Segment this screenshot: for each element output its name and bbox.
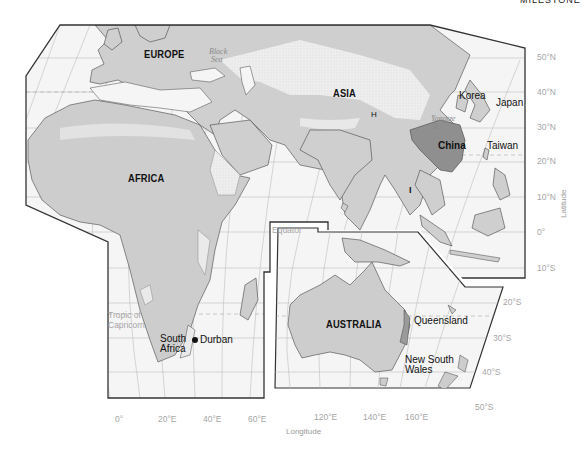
- lat-tick-30s: 30°S: [493, 334, 512, 343]
- lon-tick-0: 0°: [115, 415, 123, 424]
- label-yangtze-river: Yangtze R.: [431, 115, 456, 132]
- lon-tick-120e: 120°E: [314, 413, 337, 422]
- label-india-marker: I: [409, 186, 412, 195]
- lon-tick-140e: 140°E: [363, 413, 386, 422]
- lat-tick-20s: 20°S: [503, 298, 522, 307]
- lon-tick-40e: 40°E: [203, 415, 222, 424]
- lon-tick-20e: 20°E: [158, 415, 177, 424]
- label-europe: EUROPE: [144, 49, 185, 60]
- lat-tick-50s: 50°S: [475, 403, 494, 412]
- label-china: China: [438, 141, 466, 151]
- label-himalaya-marker: H: [371, 111, 377, 119]
- lat-tick-20n: 20°N: [537, 157, 556, 166]
- lat-tick-10s: 10°S: [537, 264, 556, 273]
- lat-tick-40n: 40°N: [537, 88, 556, 97]
- lat-tick-50n: 50°N: [537, 53, 556, 62]
- lat-tick-10n: 10°N: [537, 193, 556, 202]
- label-africa: AFRICA: [128, 173, 164, 184]
- label-south-africa: South Africa: [160, 334, 186, 354]
- lat-tick-0: 0°: [537, 228, 545, 237]
- lat-tick-30n: 30°N: [537, 123, 556, 132]
- label-durban: Durban: [200, 335, 233, 345]
- latitude-axis-title: Latitude: [560, 190, 568, 218]
- durban-marker: [192, 337, 198, 343]
- label-taiwan: Taiwan: [487, 141, 518, 151]
- lon-tick-160e: 160°E: [405, 413, 428, 422]
- label-asia: ASIA: [333, 88, 356, 99]
- label-new-south-wales: New South Wales: [405, 355, 454, 375]
- label-japan: Japan: [496, 98, 523, 108]
- label-black-sea: Black Sea: [209, 48, 227, 65]
- label-equator: Equator: [272, 226, 302, 235]
- label-tropic-of-capricorn: Tropic of Capricorn: [108, 311, 145, 331]
- lat-tick-40s: 40°S: [482, 368, 501, 377]
- label-korea: Korea: [459, 91, 486, 101]
- longitude-axis-title: Longitude: [286, 428, 321, 436]
- lon-tick-60e: 60°E: [248, 415, 267, 424]
- label-queensland: Queensland: [414, 316, 468, 326]
- label-australia: AUSTRALIA: [326, 319, 382, 330]
